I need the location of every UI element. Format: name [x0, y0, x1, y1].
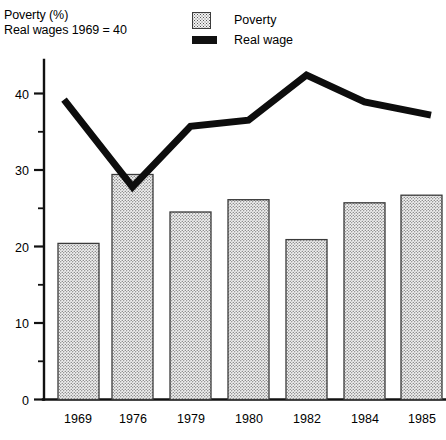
x-tick-label-1985: 1985 — [408, 412, 436, 426]
plot-area: 0 10 20 30 40 1969 1976 1979 1980 1982 1… — [0, 0, 446, 440]
x-tick-label-1979: 1979 — [177, 412, 205, 426]
y-axis-ticks — [34, 94, 44, 400]
x-axis-tick-labels: 1969 1976 1979 1980 1982 1984 1985 — [64, 412, 436, 426]
x-tick-label-1984: 1984 — [351, 412, 379, 426]
bar-1985 — [401, 195, 442, 399]
x-tick-label-1980: 1980 — [235, 412, 263, 426]
x-tick-label-1969: 1969 — [64, 412, 92, 426]
poverty-real-wage-chart: Poverty (%) Real wages 1969 = 40 Poverty… — [0, 0, 446, 440]
line-series-real-wage — [64, 75, 431, 187]
y-axis-tick-labels: 0 10 20 30 40 — [15, 88, 29, 408]
bar-1980 — [228, 200, 269, 400]
bar-1984 — [344, 203, 385, 400]
x-tick-label-1982: 1982 — [293, 412, 321, 426]
y-tick-label-0: 0 — [22, 394, 29, 408]
bar-1969 — [58, 243, 99, 399]
y-tick-label-40: 40 — [15, 88, 29, 102]
bar-series-poverty — [58, 175, 442, 400]
bar-1982 — [286, 240, 327, 400]
x-tick-label-1976: 1976 — [119, 412, 147, 426]
y-tick-label-10: 10 — [15, 317, 29, 331]
bar-1976 — [112, 175, 153, 400]
y-tick-label-30: 30 — [15, 164, 29, 178]
bar-1979 — [170, 212, 211, 400]
y-tick-label-20: 20 — [15, 241, 29, 255]
